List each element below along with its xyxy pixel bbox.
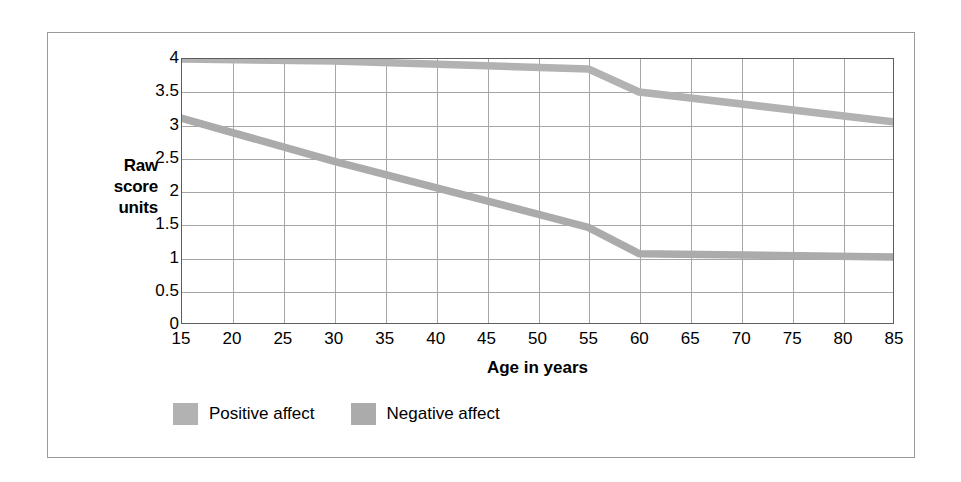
x-tick-label: 75 (783, 329, 802, 349)
x-tick-label: 85 (885, 329, 904, 349)
series-lines (182, 59, 893, 323)
x-tick-label: 20 (222, 329, 241, 349)
line-chart: Rawscoreunits 00.511.522.533.54 15202530… (48, 33, 916, 459)
x-axis-title: Age in years (181, 358, 894, 378)
legend-color-swatch (351, 403, 376, 425)
legend-label: Positive affect (209, 404, 315, 424)
plot-area (181, 58, 894, 324)
x-tick-label: 65 (681, 329, 700, 349)
x-tick-label: 80 (834, 329, 853, 349)
series-line (182, 118, 893, 257)
y-tick-label: 1 (143, 248, 179, 268)
x-tick-label: 70 (732, 329, 751, 349)
x-tick-label: 45 (477, 329, 496, 349)
x-tick-label: 30 (324, 329, 343, 349)
x-tick-label: 55 (579, 329, 598, 349)
y-tick-label: 3.5 (143, 81, 179, 101)
x-tick-label: 40 (426, 329, 445, 349)
x-tick-label: 25 (273, 329, 292, 349)
legend-item: Positive affect (173, 403, 315, 425)
y-tick-label: 2 (143, 181, 179, 201)
y-axis-tick-labels: 00.511.522.533.54 (143, 58, 179, 324)
chart-legend: Positive affectNegative affect (173, 403, 536, 425)
x-tick-label: 50 (528, 329, 547, 349)
x-tick-label: 60 (630, 329, 649, 349)
legend-label: Negative affect (387, 404, 500, 424)
series-line (182, 59, 893, 122)
y-tick-label: 4 (143, 48, 179, 68)
legend-color-swatch (173, 403, 198, 425)
figure-frame: Rawscoreunits 00.511.522.533.54 15202530… (47, 32, 915, 458)
y-tick-label: 0.5 (143, 281, 179, 301)
x-tick-label: 15 (172, 329, 191, 349)
x-axis-tick-labels: 152025303540455055606570758085 (181, 329, 894, 353)
y-tick-label: 2.5 (143, 148, 179, 168)
y-tick-label: 1.5 (143, 214, 179, 234)
x-tick-label: 35 (375, 329, 394, 349)
legend-item: Negative affect (351, 403, 500, 425)
y-tick-label: 3 (143, 115, 179, 135)
